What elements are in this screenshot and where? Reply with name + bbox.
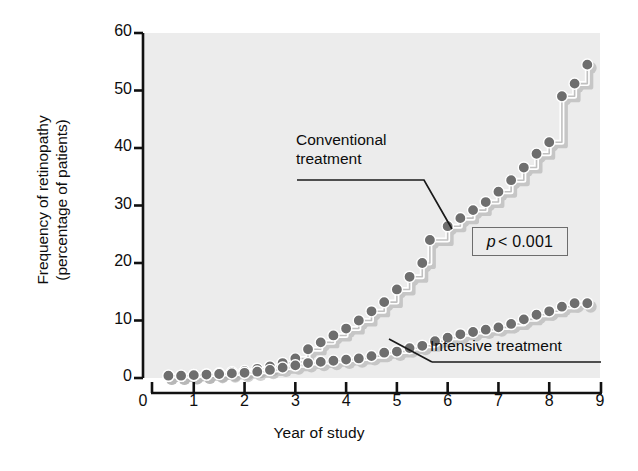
- data-point-intensive-13: [328, 355, 339, 366]
- data-point-conventional-23: [455, 213, 466, 224]
- p-value-box: p< 0.001: [472, 227, 568, 256]
- data-point-intensive-18: [391, 346, 402, 357]
- data-point-conventional-28: [518, 162, 529, 173]
- data-point-conventional-16: [366, 306, 377, 317]
- data-point-intensive-10: [290, 360, 301, 371]
- data-point-intensive-6: [239, 367, 250, 378]
- data-point-conventional-25: [480, 196, 491, 207]
- data-point-intensive-5: [226, 368, 237, 379]
- data-point-intensive-30: [544, 306, 555, 317]
- data-point-intensive-31: [556, 301, 567, 312]
- data-point-intensive-20: [417, 340, 428, 351]
- data-point-intensive-12: [315, 356, 326, 367]
- data-point-intensive-17: [379, 347, 390, 358]
- data-point-intensive-26: [493, 322, 504, 333]
- data-point-conventional-32: [569, 78, 580, 89]
- data-point-intensive-1: [175, 370, 186, 381]
- annotation-intensive-treatment: Intensive treatment: [430, 336, 610, 355]
- data-point-intensive-16: [366, 351, 377, 362]
- data-point-intensive-29: [531, 309, 542, 320]
- data-point-intensive-9: [277, 362, 288, 373]
- data-point-intensive-14: [341, 354, 352, 365]
- data-point-conventional-30: [544, 137, 555, 148]
- data-point-conventional-14: [341, 323, 352, 334]
- data-point-conventional-31: [556, 91, 567, 102]
- data-point-conventional-33: [582, 59, 593, 70]
- data-point-intensive-0: [163, 370, 174, 381]
- data-point-intensive-2: [188, 370, 199, 381]
- data-point-conventional-24: [467, 205, 478, 216]
- data-point-conventional-15: [353, 315, 364, 326]
- p-value-text: p< 0.001: [473, 228, 567, 255]
- data-point-conventional-11: [302, 344, 313, 355]
- p-value-comparison: < 0.001: [498, 233, 553, 251]
- data-point-intensive-28: [518, 314, 529, 325]
- data-point-conventional-20: [417, 257, 428, 268]
- data-point-conventional-29: [531, 148, 542, 159]
- data-point-intensive-4: [214, 368, 225, 379]
- retinopathy-frequency-chart: Frequency of retinopathy (percentage of …: [0, 0, 638, 471]
- data-point-intensive-27: [506, 318, 517, 329]
- data-point-intensive-7: [252, 366, 263, 377]
- data-point-conventional-18: [391, 284, 402, 295]
- data-point-conventional-13: [328, 330, 339, 341]
- annotation-conventional-treatment: Conventional treatment: [296, 130, 456, 168]
- data-point-intensive-15: [353, 353, 364, 364]
- data-point-conventional-12: [315, 337, 326, 348]
- data-point-conventional-17: [379, 297, 390, 308]
- data-point-intensive-25: [480, 324, 491, 335]
- data-point-intensive-3: [201, 369, 212, 380]
- data-point-conventional-27: [506, 175, 517, 186]
- data-point-conventional-21: [424, 234, 435, 245]
- data-point-conventional-26: [493, 186, 504, 197]
- data-point-intensive-8: [264, 364, 275, 375]
- data-point-intensive-11: [302, 357, 313, 368]
- p-value-symbol: p: [487, 233, 498, 251]
- data-point-intensive-32: [569, 298, 580, 309]
- data-point-conventional-19: [404, 271, 415, 282]
- data-point-intensive-33: [582, 298, 593, 309]
